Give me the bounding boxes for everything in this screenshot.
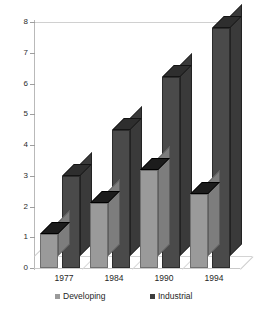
legend-label-developing: Developing bbox=[63, 292, 106, 301]
x-axis-label-1994: 1994 bbox=[192, 274, 236, 283]
legend-item-industrial: Industrial bbox=[150, 292, 193, 301]
y-tick-3 bbox=[30, 176, 35, 177]
bar-side-face bbox=[230, 4, 242, 256]
bar-front-face bbox=[40, 234, 58, 268]
legend-item-developing: Developing bbox=[55, 292, 106, 301]
legend-swatch-icon-industrial bbox=[150, 294, 155, 299]
y-tick-label-5: 5 bbox=[14, 110, 28, 118]
y-tick-label-6: 6 bbox=[14, 80, 28, 88]
y-tick-2 bbox=[30, 207, 35, 208]
y-tick-4 bbox=[30, 145, 35, 146]
y-tick-6 bbox=[30, 84, 35, 85]
y-tick-label-1: 1 bbox=[14, 233, 28, 241]
bar-front-face bbox=[90, 203, 108, 268]
y-tick-1 bbox=[30, 237, 35, 238]
floor-right-edge bbox=[240, 256, 253, 269]
y-tick-label-4: 4 bbox=[14, 141, 28, 149]
bar-front-face bbox=[190, 194, 208, 268]
x-axis-label-1990: 1990 bbox=[142, 274, 186, 283]
bar-developing-1977 bbox=[40, 234, 58, 268]
x-axis-label-1984: 1984 bbox=[92, 274, 136, 283]
y-tick-label-3: 3 bbox=[14, 172, 28, 180]
top-gridline bbox=[34, 22, 240, 23]
y-tick-label-0: 0 bbox=[14, 264, 28, 272]
legend-label-industrial: Industrial bbox=[158, 292, 193, 301]
x-axis-label-1977: 1977 bbox=[42, 274, 86, 283]
legend-swatch-icon-developing bbox=[55, 294, 60, 299]
bar-developing-1994 bbox=[190, 194, 208, 268]
y-tick-5 bbox=[30, 114, 35, 115]
bar-chart: 012345678 1977198419901994 Developing In… bbox=[0, 0, 260, 312]
y-tick-label-8: 8 bbox=[14, 18, 28, 26]
bar-developing-1984 bbox=[90, 203, 108, 268]
y-tick-label-7: 7 bbox=[14, 49, 28, 57]
chart-legend: Developing Industrial bbox=[0, 290, 260, 306]
y-tick-label-2: 2 bbox=[14, 203, 28, 211]
y-tick-8 bbox=[30, 22, 35, 23]
bar-front-face bbox=[140, 170, 158, 268]
y-tick-7 bbox=[30, 53, 35, 54]
bar-developing-1990 bbox=[140, 170, 158, 268]
plot-area: 012345678 1977198419901994 bbox=[0, 0, 260, 312]
